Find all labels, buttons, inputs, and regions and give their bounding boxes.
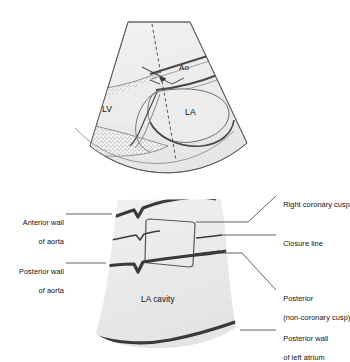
label-posterior-wall-of-aorta-line2: of aorta — [39, 286, 64, 295]
label-posterior-wall-of-aorta-line1: Posterior wall — [19, 267, 64, 276]
label-posterior-wall-of-left-atrium-line2: of left atrium — [283, 353, 324, 362]
label-posterior-non-coronary-cusp-line2: (non-coronary cusp) — [283, 313, 350, 322]
mmode-diagram — [66, 196, 276, 348]
label-closure-line: Closure line — [279, 230, 346, 248]
label-posterior-wall-of-left-atrium-line1: Posterior wall — [283, 334, 328, 343]
sector-label-ao: Ao — [179, 63, 189, 72]
sector-scan-diagram — [60, 22, 247, 173]
sector-label-lv: LV — [102, 104, 112, 114]
sector-label-la: LA — [185, 107, 196, 117]
label-posterior-non-coronary-cusp-line1: Posterior — [283, 294, 313, 303]
mmode-body — [96, 199, 236, 348]
label-right-coronary-cusp-line1: Right coronary cusp — [283, 200, 350, 209]
label-anterior-wall-of-aorta-line2: of aorta — [39, 237, 64, 246]
label-right-coronary-cusp: Right coronary cusp — [279, 191, 346, 209]
label-closure-line-line1: Closure line — [283, 239, 323, 248]
label-posterior-wall-of-left-atrium: Posterior wall of left atrium — [279, 325, 346, 362]
label-posterior-non-coronary-cusp: Posterior (non-coronary cusp) — [279, 285, 346, 322]
mmode-label-la-cavity: LA cavity — [141, 295, 175, 304]
label-anterior-wall-of-aorta-line1: Anterior wall — [23, 218, 64, 227]
label-posterior-wall-of-aorta: Posterior wall of aorta — [0, 258, 64, 295]
label-anterior-wall-of-aorta: Anterior wall of aorta — [0, 209, 64, 246]
